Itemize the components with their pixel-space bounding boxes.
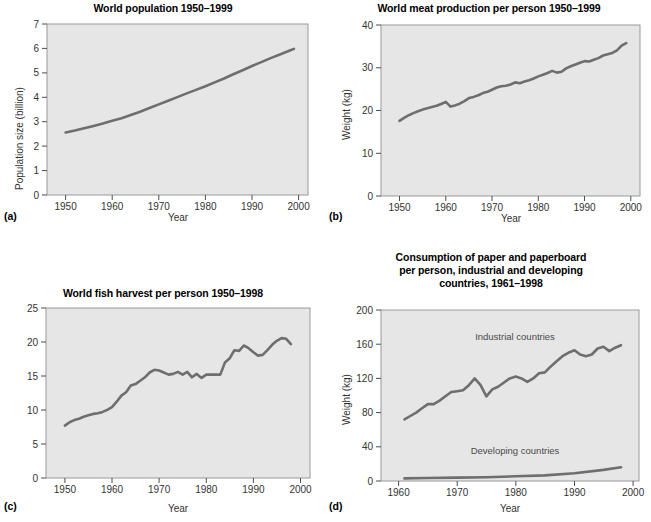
panel-d-chart: 0 40 80 120 160 200 1960 1970 1980 1990 … — [325, 240, 651, 522]
svg-text:2000: 2000 — [287, 201, 310, 212]
svg-text:1990: 1990 — [573, 202, 596, 213]
svg-text:5: 5 — [32, 439, 38, 450]
svg-text:160: 160 — [356, 339, 373, 350]
svg-text:1970: 1970 — [481, 202, 504, 213]
svg-text:1980: 1980 — [505, 487, 528, 498]
panel-a-chart: 0 1 2 3 4 5 6 7 1950 1960 1970 — [0, 0, 326, 230]
svg-text:3: 3 — [33, 116, 39, 127]
svg-text:1960: 1960 — [101, 484, 124, 495]
svg-text:20: 20 — [27, 337, 39, 348]
svg-text:15: 15 — [27, 371, 39, 382]
svg-text:1980: 1980 — [527, 202, 550, 213]
svg-text:1970: 1970 — [148, 484, 171, 495]
svg-text:0: 0 — [367, 476, 373, 487]
svg-text:1990: 1990 — [241, 201, 264, 212]
panel-b: World meat production per person 1950–19… — [325, 0, 651, 230]
svg-text:200: 200 — [356, 305, 373, 316]
svg-text:40: 40 — [362, 20, 374, 31]
svg-text:1950: 1950 — [54, 201, 77, 212]
svg-text:10: 10 — [27, 405, 39, 416]
svg-text:25: 25 — [27, 303, 39, 314]
panel-c-chart: 0 5 10 15 20 25 1950 1960 1970 1980 19 — [0, 260, 326, 522]
svg-text:5: 5 — [33, 67, 39, 78]
svg-text:6: 6 — [33, 43, 39, 54]
svg-text:1990: 1990 — [563, 487, 586, 498]
svg-text:1950: 1950 — [388, 202, 411, 213]
svg-text:1960: 1960 — [387, 487, 410, 498]
panel-b-chart: 0 10 20 30 40 1950 1960 1970 1980 1990 — [325, 0, 651, 230]
svg-text:1970: 1970 — [446, 487, 469, 498]
svg-text:1980: 1980 — [195, 484, 218, 495]
svg-text:0: 0 — [33, 190, 39, 201]
svg-text:2: 2 — [33, 141, 39, 152]
svg-text:4: 4 — [33, 92, 39, 103]
panel-d-annotation-industrial: Industrial countries — [475, 331, 555, 342]
svg-text:1950: 1950 — [54, 484, 77, 495]
figure-page: World population 1950–1999 (a) Populatio… — [0, 0, 651, 522]
svg-text:40: 40 — [362, 441, 374, 452]
svg-text:1970: 1970 — [148, 201, 171, 212]
svg-text:1: 1 — [33, 165, 39, 176]
svg-text:7: 7 — [33, 19, 39, 30]
svg-text:1960: 1960 — [435, 202, 458, 213]
svg-text:10: 10 — [362, 148, 374, 159]
svg-text:30: 30 — [362, 62, 374, 73]
svg-text:2000: 2000 — [289, 484, 312, 495]
svg-text:0: 0 — [32, 473, 38, 484]
svg-text:2000: 2000 — [622, 487, 645, 498]
svg-text:0: 0 — [367, 191, 373, 202]
svg-text:2000: 2000 — [620, 202, 643, 213]
svg-text:1990: 1990 — [242, 484, 265, 495]
panel-a: World population 1950–1999 (a) Populatio… — [0, 0, 326, 230]
svg-text:20: 20 — [362, 105, 374, 116]
panel-c: World fish harvest per person 1950–1998 … — [0, 260, 326, 522]
svg-text:1980: 1980 — [194, 201, 217, 212]
svg-text:1960: 1960 — [101, 201, 124, 212]
svg-text:80: 80 — [362, 407, 374, 418]
svg-text:120: 120 — [356, 373, 373, 384]
panel-d-annotation-developing: Developing countries — [471, 445, 560, 456]
panel-d: Consumption of paper and paperboard per … — [325, 240, 651, 522]
